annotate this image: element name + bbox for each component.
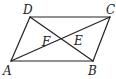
label-c: C bbox=[106, 3, 115, 17]
label-a: A bbox=[2, 64, 12, 78]
label-e: E bbox=[73, 34, 83, 48]
label-f: F bbox=[41, 35, 51, 49]
parallelogram-diagram: D C A B F E bbox=[0, 0, 116, 79]
label-b: B bbox=[87, 64, 97, 78]
diagonal-db bbox=[30, 17, 93, 61]
label-d: D bbox=[22, 3, 33, 17]
